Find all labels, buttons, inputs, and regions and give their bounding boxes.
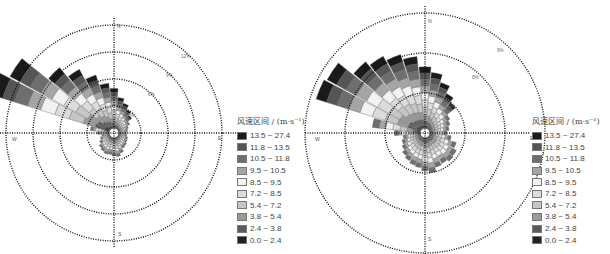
legend-swatch — [532, 201, 542, 209]
rose-segment — [422, 100, 428, 107]
rose-segment — [372, 118, 380, 128]
legend-swatch — [532, 178, 542, 186]
legend-swatch — [237, 143, 247, 151]
legend-swatch — [237, 167, 247, 175]
legend-label: 3.8 ~ 5.4 — [545, 212, 576, 221]
legend-swatch — [532, 236, 542, 244]
legend-entry: 2.4 ~ 3.8 — [237, 223, 305, 235]
rose-segment — [126, 129, 128, 131]
legend-swatch — [237, 236, 247, 244]
rose-segment — [403, 135, 406, 139]
legend-entry: 0.0 ~ 2.4 — [532, 234, 600, 246]
legend-label: 3.8 ~ 5.4 — [250, 212, 281, 221]
legend-entry: 8.5 ~ 9.5 — [237, 176, 305, 188]
right-wind-rose — [316, 55, 456, 173]
left-grid — [0, 18, 237, 248]
rose-segment — [104, 132, 106, 134]
legend-swatch — [237, 178, 247, 186]
left-ring-9: 9% — [166, 73, 173, 78]
legend-entry: 8.5 ~ 9.5 — [532, 176, 600, 188]
legend-swatch — [532, 132, 542, 140]
legend-label: 10.5 ~ 11.8 — [545, 154, 585, 163]
legend-title: 风速区间 / (m·s⁻¹) — [532, 115, 600, 126]
legend-swatch — [532, 190, 542, 198]
legend-entry: 11.8 ~ 13.5 — [237, 142, 305, 154]
legend-label: 5.4 ~ 7.2 — [250, 201, 281, 210]
wind-rose-canvas: N E S W 3% 6% 9% 12% N E S W 3% 6% 9% — [0, 0, 610, 254]
figure: N E S W 3% 6% 9% 12% N E S W 3% 6% 9% 风速… — [0, 0, 610, 254]
legend-label: 7.2 ~ 8.5 — [545, 189, 576, 198]
legend-swatch — [532, 143, 542, 151]
legend-label: 9.5 ~ 10.5 — [250, 166, 286, 175]
legend-title: 风速区间 / (m·s⁻¹) — [237, 115, 305, 126]
legend-label: 2.4 ~ 3.8 — [545, 224, 576, 233]
left-ring-3: 3% — [128, 113, 135, 118]
legend-label: 10.5 ~ 11.8 — [250, 154, 290, 163]
legend-label: 0.0 ~ 2.4 — [250, 236, 281, 245]
rose-segment — [386, 122, 394, 130]
legend-label: 8.5 ~ 9.5 — [545, 178, 576, 187]
legend-entry: 5.4 ~ 7.2 — [532, 200, 600, 212]
right-ring-6: 6% — [472, 75, 479, 80]
legend-label: 2.4 ~ 3.8 — [250, 224, 281, 233]
left-legend: 风速区间 / (m·s⁻¹) 13.5 ~ 27.411.8 ~ 13.510.… — [237, 115, 305, 246]
rose-segment — [419, 67, 431, 73]
legend-entry: 13.5 ~ 27.4 — [237, 130, 305, 142]
rose-segment — [102, 134, 103, 136]
left-ring-12: 12% — [181, 54, 190, 59]
legend-swatch — [237, 201, 247, 209]
legend-swatch — [532, 213, 542, 221]
legend-label: 13.5 ~ 27.4 — [545, 131, 585, 140]
legend-swatch — [237, 190, 247, 198]
left-label-s: S — [118, 231, 122, 237]
legend-entry: 5.4 ~ 7.2 — [237, 200, 305, 212]
legend-entry: 9.5 ~ 10.5 — [532, 165, 600, 177]
legend-swatch — [532, 167, 542, 175]
left-ring-6: 6% — [148, 92, 155, 97]
legend-swatch — [237, 225, 247, 233]
legend-entry: 7.2 ~ 8.5 — [532, 188, 600, 200]
legend-label: 8.5 ~ 9.5 — [250, 178, 281, 187]
left-wind-rose — [0, 59, 132, 157]
legend-label: 7.2 ~ 8.5 — [250, 189, 281, 198]
rose-segment — [116, 153, 120, 156]
right-legend: 风速区间 / (m·s⁻¹) 13.5 ~ 27.411.8 ~ 13.510.… — [532, 115, 600, 246]
legend-swatch — [237, 155, 247, 163]
right-label-n: N — [428, 18, 432, 24]
rose-segment — [421, 86, 430, 93]
rose-segment — [446, 126, 449, 130]
rose-segment — [108, 152, 112, 155]
legend-swatch — [237, 132, 247, 140]
left-label-n: N — [117, 23, 121, 29]
legend-entry: 3.8 ~ 5.4 — [532, 211, 600, 223]
legend-entry: 11.8 ~ 13.5 — [532, 142, 600, 154]
legend-entry: 0.0 ~ 2.4 — [237, 234, 305, 246]
legend-entry: 3.8 ~ 5.4 — [237, 211, 305, 223]
legend-label: 9.5 ~ 10.5 — [545, 166, 581, 175]
left-label-w: W — [12, 136, 17, 142]
rose-segment — [125, 134, 126, 136]
legend-entry: 7.2 ~ 8.5 — [237, 188, 305, 200]
legend-swatch — [532, 155, 542, 163]
legend-label: 5.4 ~ 7.2 — [545, 201, 576, 210]
legend-label: 11.8 ~ 13.5 — [250, 143, 290, 152]
right-label-w: W — [315, 136, 320, 142]
legend-swatch — [237, 213, 247, 221]
rose-segment — [447, 135, 451, 140]
rose-segment — [420, 79, 430, 86]
right-label-s: S — [428, 236, 432, 242]
legend-entry: 13.5 ~ 27.4 — [532, 130, 600, 142]
legend-label: 11.8 ~ 13.5 — [545, 143, 585, 152]
legend-entry: 10.5 ~ 11.8 — [532, 153, 600, 165]
rose-segment — [415, 163, 421, 168]
rose-segment — [90, 126, 93, 130]
right-ring-9: 9% — [497, 48, 504, 53]
legend-entry: 10.5 ~ 11.8 — [237, 153, 305, 165]
legend-swatch — [532, 225, 542, 233]
rose-segment — [423, 107, 428, 114]
right-ring-3: 3% — [448, 104, 455, 109]
legend-entry: 2.4 ~ 3.8 — [532, 223, 600, 235]
legend-entry: 9.5 ~ 10.5 — [237, 165, 305, 177]
legend-label: 13.5 ~ 27.4 — [250, 131, 290, 140]
legend-label: 0.0 ~ 2.4 — [545, 236, 576, 245]
